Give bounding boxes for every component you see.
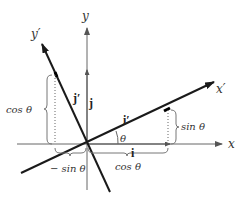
theta-label: θ (120, 133, 126, 144)
cos-theta-bottom-label: cos θ (115, 161, 141, 172)
cos-theta-brace-right (88, 148, 168, 156)
j-label: j (88, 96, 93, 110)
y-axis-label: y (81, 9, 89, 23)
x-axis-label: x (228, 137, 235, 151)
j-prime-label: j′ (72, 91, 80, 105)
rotation-diagram: x y x′ y′ i j i′ j′ θ sin θ cos θ cos θ … (0, 0, 247, 204)
x-prime-axis-label: x′ (216, 82, 226, 96)
minus-sin-theta-label: − sin θ (50, 163, 86, 174)
j-prime-tick (55, 72, 57, 77)
cos-theta-brace-left (44, 75, 52, 144)
sin-theta-label: sin θ (181, 121, 205, 132)
y-prime-axis-label: y′ (30, 27, 41, 41)
theta-arc (116, 131, 118, 144)
i-prime-tick (164, 108, 170, 111)
i-prime-label: i′ (123, 113, 130, 127)
sin-theta-brace (171, 110, 179, 144)
cos-theta-left-label: cos θ (6, 104, 32, 115)
